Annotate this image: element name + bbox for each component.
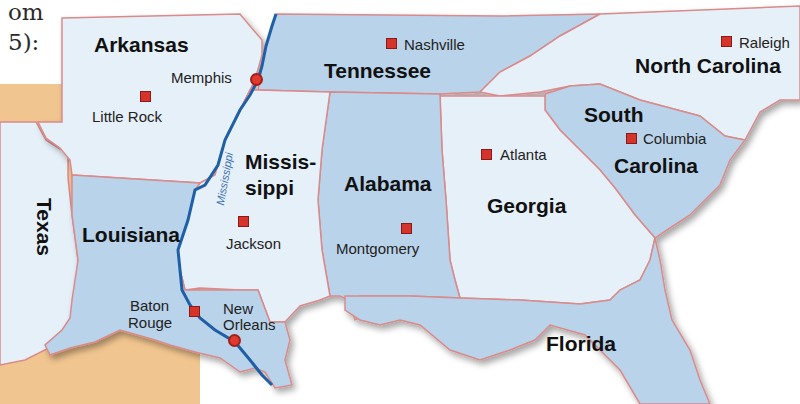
capital-label-baton-rouge-line2: Rouge <box>128 314 172 331</box>
capital-marker-raleigh <box>721 36 732 47</box>
state-label-alabama: Alabama <box>344 172 432 195</box>
capital-marker-jackson <box>238 216 249 227</box>
capital-marker-montgomery <box>401 223 412 234</box>
capital-label-raleigh: Raleigh <box>739 34 790 51</box>
city-label-new-orleans-line2: Orleans <box>223 316 276 333</box>
capital-label-montgomery: Montgomery <box>336 240 419 257</box>
state-alabama <box>318 92 460 320</box>
capital-marker-columbia <box>626 133 637 144</box>
city-marker-new-orleans <box>228 334 241 347</box>
capital-marker-little-rock <box>140 91 151 102</box>
capital-marker-baton-rouge <box>189 306 200 317</box>
capital-marker-nashville <box>386 38 397 49</box>
state-label-tennessee: Tennessee <box>324 59 431 82</box>
state-label-mississippi-line2: sippi <box>245 176 294 199</box>
state-label-texas: Texas <box>33 198 56 256</box>
state-label-florida: Florida <box>546 332 616 355</box>
state-label-south-carolina-line1: South <box>584 103 643 126</box>
city-marker-memphis <box>250 73 263 86</box>
state-label-mississippi-line1: Missis- <box>245 150 316 173</box>
city-label-new-orleans-line1: New <box>223 300 253 317</box>
city-label-memphis: Memphis <box>171 69 232 86</box>
state-label-georgia: Georgia <box>487 194 566 217</box>
fragment-text-line1: om <box>8 0 44 26</box>
capital-label-little-rock: Little Rock <box>92 108 162 125</box>
capital-label-nashville: Nashville <box>404 36 465 53</box>
capital-marker-atlanta <box>481 149 492 160</box>
capital-label-jackson: Jackson <box>226 235 281 252</box>
state-label-arkansas: Arkansas <box>94 33 189 56</box>
capital-label-baton-rouge-line1: Baton <box>130 297 169 314</box>
capital-label-columbia: Columbia <box>643 130 706 147</box>
capital-label-atlanta: Atlanta <box>500 146 547 163</box>
fragment-text-line2: 5): <box>8 28 39 56</box>
state-label-louisiana: Louisiana <box>82 223 180 246</box>
state-label-north-carolina: North Carolina <box>635 54 781 77</box>
state-label-south-carolina-line2: Carolina <box>614 154 698 177</box>
